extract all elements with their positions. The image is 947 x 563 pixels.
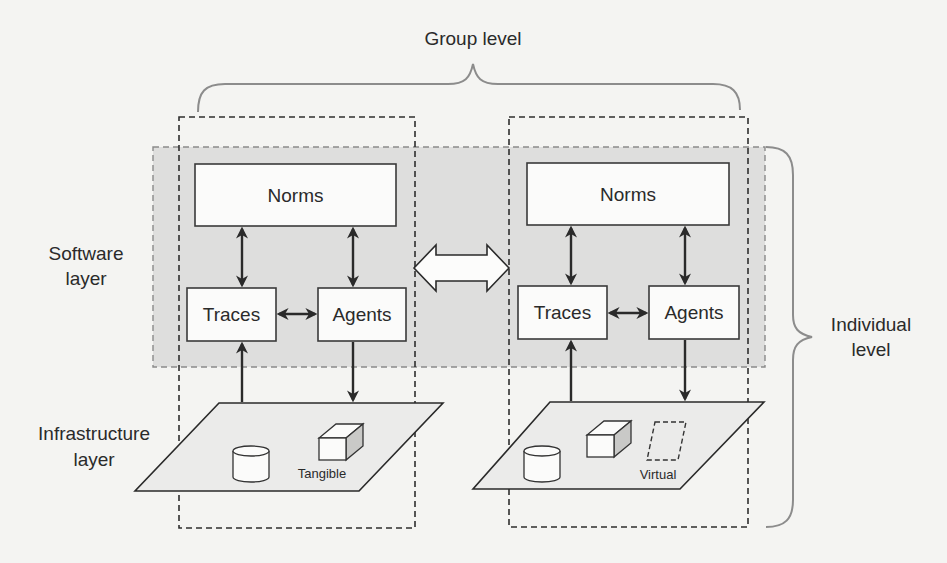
individual-level-brace xyxy=(766,147,812,527)
software-layer-label-line1: Software xyxy=(49,243,124,264)
left-infrastructure-plane xyxy=(135,403,443,491)
cylinder-icon xyxy=(233,446,269,482)
left-traces-label: Traces xyxy=(203,304,260,325)
software-layer-label-line2: layer xyxy=(65,268,107,289)
left-agents-label: Agents xyxy=(332,304,391,325)
right-norms-label: Norms xyxy=(600,184,656,205)
tangible-label: Tangible xyxy=(298,466,346,481)
cylinder-icon xyxy=(524,446,560,482)
individual-level-label-line2: level xyxy=(851,339,890,360)
right-traces-label: Traces xyxy=(534,302,591,323)
diagram-canvas: Group level Individual level Software la… xyxy=(0,0,947,563)
individual-level-label-line1: Individual xyxy=(831,314,911,335)
infrastructure-layer-label-line2: layer xyxy=(73,449,115,470)
group-level-brace xyxy=(198,64,740,112)
infrastructure-layer-label-line1: Infrastructure xyxy=(38,423,150,444)
left-norms-label: Norms xyxy=(268,185,324,206)
virtual-label: Virtual xyxy=(640,467,677,482)
right-agents-label: Agents xyxy=(664,302,723,323)
group-level-label: Group level xyxy=(424,28,521,49)
